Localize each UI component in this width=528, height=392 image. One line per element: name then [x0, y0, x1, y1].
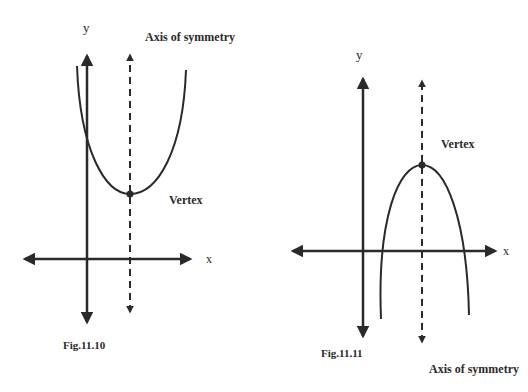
x-axis-label: x — [206, 252, 212, 266]
parabola-curve — [381, 165, 469, 319]
x-axis-label: x — [503, 244, 509, 258]
figure-caption: Fig.11.10 — [63, 339, 106, 351]
figure-11-10: y x Axis of symmetry Vertex Fig.11.10 — [25, 20, 235, 351]
vertex-point — [419, 162, 426, 169]
axis-of-symmetry-label: Axis of symmetry — [429, 362, 519, 376]
parabola-diagrams: y x Axis of symmetry Vertex Fig.11.10 y … — [0, 0, 528, 392]
parabola-curve — [77, 66, 186, 194]
y-axis-label: y — [83, 20, 90, 35]
vertex-label: Vertex — [441, 137, 475, 151]
axis-of-symmetry-label: Axis of symmetry — [145, 30, 235, 44]
y-axis-label: y — [356, 47, 363, 62]
vertex-label: Vertex — [169, 193, 203, 207]
vertex-point — [127, 191, 134, 198]
figure-caption: Fig.11.11 — [321, 347, 363, 359]
figure-11-11: y x Vertex Fig.11.11 Axis of symmetry — [293, 47, 519, 376]
